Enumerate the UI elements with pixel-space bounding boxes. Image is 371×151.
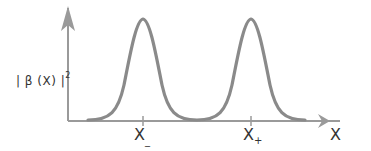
probability-curve [88,19,305,120]
tick-label-x-minus: X_ [134,125,150,146]
tick-label-x-plus: X+ [243,125,262,146]
x-axis-label: X [330,125,341,144]
y-axis-label: | β (X) |2 [16,74,71,88]
